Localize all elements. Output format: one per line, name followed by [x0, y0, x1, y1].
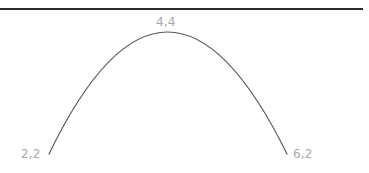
- point-label-left: 2,2: [21, 147, 41, 161]
- parabola-curve: [0, 0, 369, 173]
- point-label-peak: 4,4: [156, 15, 176, 29]
- diagram-canvas: 2,2 4,4 6,2: [0, 0, 369, 173]
- point-label-right: 6,2: [293, 147, 313, 161]
